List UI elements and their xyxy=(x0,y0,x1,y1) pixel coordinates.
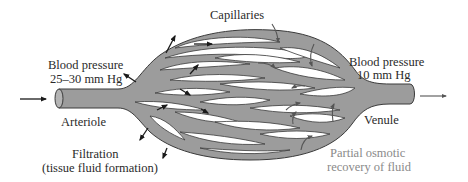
recovery-label-line2: recovery of fluid xyxy=(327,160,411,174)
venous-pressure-label-line2: 10 mm Hg xyxy=(357,68,410,82)
capillaries-label: Capillaries xyxy=(210,8,264,22)
filtration-label-line1: Filtration xyxy=(72,147,119,161)
recovery-label-line1: Partial osmotic xyxy=(330,146,405,160)
venule-label: Venule xyxy=(364,113,399,127)
filtration-label-line2: (tissue fluid formation) xyxy=(42,161,158,175)
venous-pressure-label-line1: Blood pressure xyxy=(349,55,424,69)
arteriole-label: Arteriole xyxy=(61,115,106,129)
arterial-pressure-label-line1: Blood pressure xyxy=(48,58,123,72)
arterial-pressure-label-line2: 25–30 mm Hg xyxy=(50,72,122,86)
